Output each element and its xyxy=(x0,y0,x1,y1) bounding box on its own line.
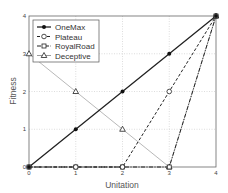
marker-onemax xyxy=(214,14,218,18)
chart: 0123401234 OneMaxPlateauRoyalRoadDecepti… xyxy=(0,0,228,193)
y-tick-label: 4 xyxy=(23,13,27,19)
marker-plateau xyxy=(120,165,125,170)
x-tick-label: 3 xyxy=(168,170,172,176)
marker-plateau xyxy=(73,165,78,170)
x-tick-label: 0 xyxy=(27,170,31,176)
marker-plateau xyxy=(167,89,172,94)
legend-label: Deceptive xyxy=(55,52,91,61)
x-tick-label: 1 xyxy=(74,170,78,176)
x-axis-label: Unitation xyxy=(105,180,139,190)
marker-onemax xyxy=(74,127,78,131)
marker-royalroad xyxy=(167,165,171,169)
legend-marker xyxy=(42,25,46,29)
y-axis-label: Fitness xyxy=(8,77,18,104)
legend: OneMaxPlateauRoyalRoadDeceptive xyxy=(33,20,99,62)
y-tick-label: 2 xyxy=(23,89,27,95)
y-tick-label: 1 xyxy=(23,126,27,132)
marker-deceptive xyxy=(26,51,32,56)
legend-label: OneMax xyxy=(55,23,85,32)
marker-deceptive xyxy=(73,89,79,94)
legend-marker xyxy=(42,34,47,39)
marker-onemax xyxy=(167,52,171,56)
marker-onemax xyxy=(27,165,31,169)
legend-marker xyxy=(42,44,46,48)
marker-deceptive xyxy=(120,126,126,131)
x-tick-label: 4 xyxy=(214,170,218,176)
marker-onemax xyxy=(121,90,125,94)
legend-label: Plateau xyxy=(55,33,82,42)
legend-label: RoyalRoad xyxy=(55,42,95,51)
x-tick-label: 2 xyxy=(121,170,125,176)
y-tick-label: 0 xyxy=(23,164,27,170)
